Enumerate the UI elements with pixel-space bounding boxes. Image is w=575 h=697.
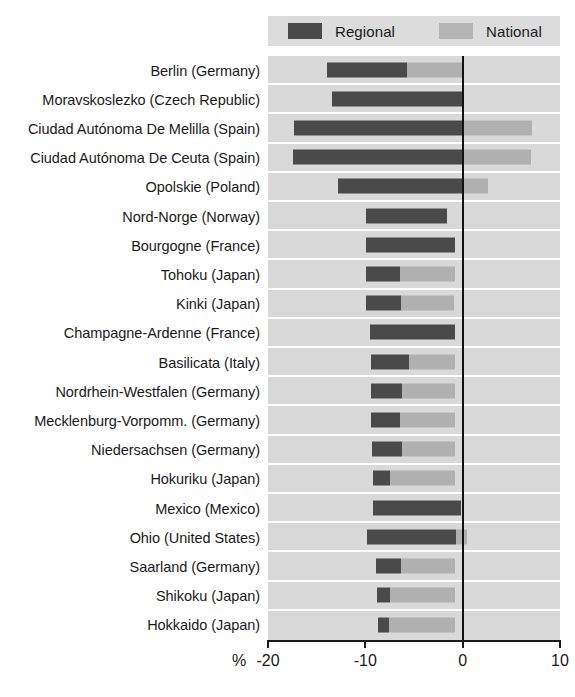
category-label: Moravskoslezko (Czech Republic) <box>0 93 260 108</box>
chart-row <box>268 173 560 202</box>
category-label: Bourgogne (France) <box>0 239 260 254</box>
chart-row <box>268 85 560 114</box>
category-label: Mexico (Mexico) <box>0 502 260 517</box>
bar-regional <box>366 237 455 252</box>
axis-tick <box>559 640 561 648</box>
square-swatch-icon <box>288 23 322 39</box>
legend-label-national: National <box>486 23 542 40</box>
category-label: Ciudad Autónoma De Melilla (Spain) <box>0 122 260 137</box>
category-label: Nord-Norge (Norway) <box>0 210 260 225</box>
bar-regional <box>372 442 402 457</box>
bar-regional <box>293 150 462 165</box>
chart-legend: Regional National <box>268 16 560 46</box>
axis-tick-label: 0 <box>458 652 467 670</box>
bar-regional <box>371 412 400 427</box>
chart-root: Regional National Berlin (Germany)Moravs… <box>0 0 575 697</box>
axis-tick-label: -20 <box>256 652 279 670</box>
bar-regional <box>366 296 401 311</box>
bar-regional <box>327 62 407 77</box>
category-label: Ciudad Autónoma De Ceuta (Spain) <box>0 151 260 166</box>
axis-line <box>268 640 560 642</box>
bar-regional <box>373 500 461 515</box>
chart-row <box>268 523 560 552</box>
category-label: Shikoku (Japan) <box>0 589 260 604</box>
category-label: Nordrhein-Westfalen (Germany) <box>0 385 260 400</box>
bar-national <box>389 618 455 633</box>
chart-row <box>268 144 560 173</box>
bar-regional <box>373 471 390 486</box>
category-label: Mecklenburg-Vorpomm. (Germany) <box>0 414 260 429</box>
category-label: Tohoku (Japan) <box>0 268 260 283</box>
bar-national <box>463 120 532 135</box>
chart-row <box>268 377 560 406</box>
chart-row <box>268 114 560 143</box>
chart-row <box>268 260 560 289</box>
zero-reference-line <box>462 56 464 640</box>
category-label: Niedersachsen (Germany) <box>0 443 260 458</box>
chart-row <box>268 231 560 260</box>
bar-regional <box>371 383 402 398</box>
axis-tick-label: -10 <box>354 652 377 670</box>
value-axis: % -20-10010 <box>268 640 560 650</box>
bar-regional <box>370 325 455 340</box>
bar-national <box>400 412 455 427</box>
chart-row <box>268 406 560 435</box>
chart-row <box>268 494 560 523</box>
bar-national <box>400 266 455 281</box>
bar-regional <box>367 529 456 544</box>
chart-row <box>268 348 560 377</box>
category-label: Hokkaido (Japan) <box>0 618 260 633</box>
legend-item-regional[interactable]: Regional <box>288 16 395 46</box>
category-label: Berlin (Germany) <box>0 64 260 79</box>
chart-title-remnant <box>252 0 452 3</box>
axis-tick <box>267 640 269 648</box>
bar-national <box>402 383 455 398</box>
bar-national <box>407 62 462 77</box>
bar-national <box>409 354 455 369</box>
chart-row <box>268 290 560 319</box>
axis-tick-label: 10 <box>551 652 569 670</box>
bar-national <box>402 442 455 457</box>
chart-row <box>268 611 560 640</box>
axis-unit-label: % <box>232 652 246 670</box>
legend-label-regional: Regional <box>335 23 395 40</box>
bar-regional <box>332 91 461 106</box>
chart-row <box>268 436 560 465</box>
category-label: Kinki (Japan) <box>0 297 260 312</box>
bar-regional <box>366 266 400 281</box>
category-label: Hokuriku (Japan) <box>0 472 260 487</box>
category-label: Basilicata (Italy) <box>0 356 260 371</box>
bar-regional <box>376 558 401 573</box>
chart-row <box>268 465 560 494</box>
category-label: Saarland (Germany) <box>0 560 260 575</box>
chart-row <box>268 552 560 581</box>
axis-tick <box>364 640 366 648</box>
bar-national <box>463 150 531 165</box>
chart-row <box>268 56 560 85</box>
axis-tick <box>462 640 464 648</box>
category-label: Opolskie (Poland) <box>0 180 260 195</box>
bar-national <box>462 179 488 194</box>
bar-national <box>401 558 455 573</box>
chart-row <box>268 582 560 611</box>
category-label: Ohio (United States) <box>0 531 260 546</box>
category-axis-labels: Berlin (Germany)Moravskoslezko (Czech Re… <box>0 56 260 640</box>
bar-national <box>390 588 455 603</box>
chart-row <box>268 319 560 348</box>
category-label: Champagne-Ardenne (France) <box>0 326 260 341</box>
bar-regional <box>338 179 462 194</box>
chart-row <box>268 202 560 231</box>
bar-regional <box>371 354 409 369</box>
bar-regional <box>377 588 390 603</box>
plot-area <box>268 56 560 640</box>
square-swatch-icon <box>439 23 473 39</box>
bar-national <box>390 471 455 486</box>
bar-regional <box>378 618 389 633</box>
bar-regional <box>366 208 447 223</box>
bar-regional <box>294 120 462 135</box>
bar-national <box>401 296 454 311</box>
legend-item-national[interactable]: National <box>439 16 542 46</box>
